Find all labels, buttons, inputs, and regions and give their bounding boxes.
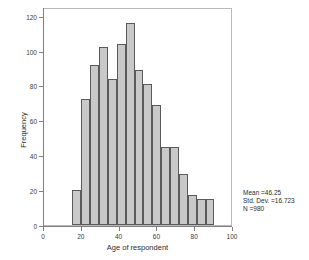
histogram-bar	[197, 199, 206, 225]
x-tick-label: 20	[77, 233, 84, 240]
histogram-bar	[206, 199, 215, 225]
x-tick-mark	[194, 227, 195, 231]
histogram-bar	[108, 79, 117, 225]
statistics-annotation: Mean =46.25 Std. Dev. =16.723 N =980	[243, 189, 295, 213]
histogram-bar	[188, 195, 197, 225]
histogram-bar	[179, 174, 188, 225]
histogram-bar	[72, 190, 81, 225]
x-axis-title: Age of respondent	[43, 243, 232, 252]
x-tick-mark	[232, 227, 233, 231]
y-tick-label: 120	[26, 13, 37, 20]
histogram-bar	[90, 65, 99, 225]
x-tick-label: 40	[115, 233, 122, 240]
histogram-bar	[81, 99, 90, 225]
y-tick-mark	[39, 191, 43, 192]
y-tick-label: 80	[30, 83, 37, 90]
y-tick-label: 60	[30, 118, 37, 125]
histogram-chart: Frequency 020406080100120 020406080100 A…	[0, 0, 309, 260]
y-tick-label: 0	[33, 223, 37, 230]
y-tick-label: 40	[30, 153, 37, 160]
plot-area	[44, 9, 231, 225]
y-tick-mark	[39, 121, 43, 122]
histogram-bar	[170, 147, 179, 225]
y-tick-mark	[39, 86, 43, 87]
stat-std-dev: Std. Dev. =16.723	[243, 197, 295, 205]
x-tick-mark	[43, 227, 44, 231]
histogram-bar	[126, 23, 135, 225]
x-tick-label: 0	[41, 233, 45, 240]
y-tick-mark	[39, 17, 43, 18]
x-tick-mark	[81, 227, 82, 231]
y-tick-label: 20	[30, 188, 37, 195]
stat-n: N =980	[243, 205, 295, 213]
y-tick-mark	[39, 52, 43, 53]
stat-mean: Mean =46.25	[243, 189, 295, 197]
plot-frame	[43, 8, 232, 226]
x-axis-line	[43, 226, 232, 227]
y-axis-title: Frequency	[19, 112, 28, 147]
histogram-bar	[152, 105, 161, 225]
x-tick-mark	[119, 227, 120, 231]
histogram-bar	[135, 70, 144, 225]
x-tick-label: 60	[153, 233, 160, 240]
histogram-bar	[143, 84, 152, 225]
x-tick-label: 80	[191, 233, 198, 240]
x-tick-label: 100	[227, 233, 238, 240]
histogram-bar	[117, 44, 126, 225]
x-tick-mark	[156, 227, 157, 231]
histogram-bar	[99, 47, 108, 225]
y-tick-label: 100	[26, 48, 37, 55]
y-tick-mark	[39, 156, 43, 157]
y-axis-line	[43, 8, 44, 226]
histogram-bar	[161, 147, 170, 225]
